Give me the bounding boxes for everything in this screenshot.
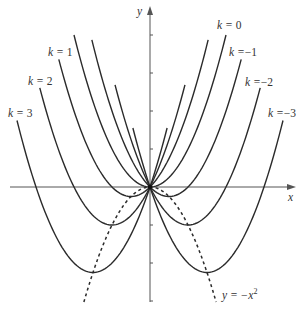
label-k2: k = 2 [28,75,53,87]
label-km3: k =−3 [268,107,296,119]
y-axis-arrow-icon [147,6,153,15]
parabola-curve [115,85,260,225]
x-axis-label: x [287,191,294,203]
parabola-curve [40,85,185,225]
origin-point [148,185,152,189]
label-vertex-curve: y = −x2 [221,287,257,302]
x-axis-arrow-icon [287,184,296,190]
label-km2: k =−2 [245,76,273,88]
label-k1: k = 1 [48,46,73,58]
y-axis-label: y [136,5,143,18]
label-km1: k =−1 [229,46,257,58]
curve-labels: k = 3 k = 2 k = 1 k = 0 k =−1 k =−2 k =−… [8,19,296,302]
label-k3: k = 3 [8,107,33,119]
parabola-family-diagram: y x k = 3 k = 2 k = 1 k = 0 k =−1 k =−2 … [0,0,300,317]
label-k0: k = 0 [217,19,242,31]
